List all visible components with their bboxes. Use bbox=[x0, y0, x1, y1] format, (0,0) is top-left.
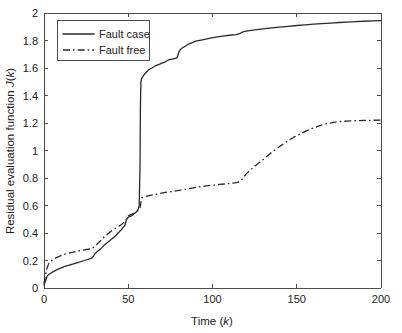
y-axis-title: Residual evaluation function J(k) bbox=[4, 68, 16, 234]
legend-label-fault-case: Fault case bbox=[99, 28, 150, 40]
x-tick-label: 0 bbox=[41, 293, 47, 305]
x-tick-label: 100 bbox=[203, 293, 221, 305]
y-tick-label: 1 bbox=[32, 145, 38, 157]
legend-label-fault-free: Fault free bbox=[99, 44, 145, 56]
y-tick-label: 0 bbox=[32, 282, 38, 294]
x-axis-title: Time (k) bbox=[191, 315, 233, 327]
y-tick-label: 2 bbox=[32, 7, 38, 19]
y-tick-label: 1.6 bbox=[23, 62, 38, 74]
y-axis-title-text: Residual evaluation function bbox=[4, 87, 16, 234]
legend[interactable]: Fault case Fault free bbox=[57, 20, 150, 60]
y-tick-label: 1.8 bbox=[23, 35, 38, 47]
x-tick-label: 200 bbox=[372, 293, 390, 305]
y-tick-label: 0.8 bbox=[23, 172, 38, 184]
svg-text:Time (k): Time (k) bbox=[191, 315, 233, 327]
y-tick-label: 0.2 bbox=[23, 255, 38, 267]
y-axis-title-paren-close: ) bbox=[4, 68, 16, 72]
x-axis-title-text: Time bbox=[191, 315, 216, 327]
y-tick-label: 1.4 bbox=[23, 90, 38, 102]
y-tick-label: 0.6 bbox=[23, 200, 38, 212]
x-tick-label: 50 bbox=[122, 293, 134, 305]
y-tick-label: 1.2 bbox=[23, 117, 38, 129]
svg-text:Residual evaluation function J: Residual evaluation function J(k) bbox=[4, 68, 16, 234]
residual-evaluation-chart: 05010015020000.20.40.60.811.21.41.61.82 … bbox=[0, 0, 402, 333]
figure-container: 05010015020000.20.40.60.811.21.41.61.82 … bbox=[0, 0, 402, 333]
y-tick-label: 0.4 bbox=[23, 227, 38, 239]
x-tick-label: 150 bbox=[288, 293, 306, 305]
